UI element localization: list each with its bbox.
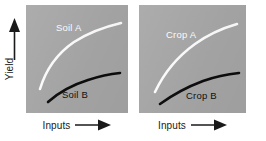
curve-label-crop-a: Crop A (166, 29, 196, 40)
x-axis-label-left: Inputs (43, 120, 71, 131)
y-axis-label: Yield (3, 43, 17, 95)
x-axis-label-right: Inputs (158, 120, 186, 131)
x-axis-left: Inputs (26, 116, 128, 134)
yield-inputs-figure: Yield Soil A Soil B Crop A Crop B Inputs… (0, 0, 266, 141)
panel-crops: Crop A Crop B (139, 5, 246, 113)
arrow-right-icon (191, 119, 227, 131)
curve-label-soil-a: Soil A (56, 22, 82, 33)
y-axis: Yield (2, 18, 26, 110)
x-axis-right: Inputs (139, 116, 246, 134)
panel-soils: Soil A Soil B (26, 5, 128, 113)
curve-label-soil-b: Soil B (62, 89, 88, 100)
arrow-right-icon (75, 119, 111, 131)
curve-label-crop-b: Crop B (186, 90, 217, 101)
